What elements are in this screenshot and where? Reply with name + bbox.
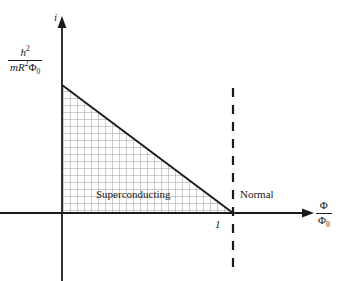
x-axis-denominator: Φ0	[316, 214, 332, 227]
y-intercept-fraction: h2 mR2Φ0	[8, 47, 42, 73]
y-axis-arrowhead	[58, 16, 67, 28]
x-axis-numerator: Φ	[316, 200, 332, 214]
phase-diagram-figure: i h2 mR2Φ0 Φ Φ0 Superconducting Normal 1	[0, 0, 344, 281]
x-axis-label: Φ Φ0	[316, 200, 332, 226]
flux-quantum-subscript: 0	[36, 67, 40, 76]
fraction-denominator: mR2Φ0	[8, 61, 42, 74]
y-axis-intercept-label: h2 mR2Φ0	[8, 47, 42, 73]
plot-canvas	[0, 0, 344, 281]
superconducting-region-label: Superconducting	[96, 189, 171, 200]
x-axis-denominator-subscript: 0	[326, 220, 330, 229]
mass-symbol: m	[10, 61, 18, 73]
normal-region-label: Normal	[240, 189, 274, 200]
x-axis-denominator-symbol: Φ	[318, 214, 326, 226]
planck-exponent: 2	[26, 44, 30, 53]
x-axis-tick-label-1: 1	[215, 219, 221, 230]
x-axis-arrowhead	[302, 209, 314, 218]
y-axis-label: i	[54, 12, 57, 23]
radius-symbol: R	[18, 61, 25, 73]
x-axis-fraction: Φ Φ0	[316, 200, 332, 226]
